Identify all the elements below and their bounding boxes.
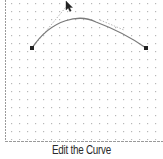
curve-editor-canvas[interactable] (0, 0, 163, 159)
start-anchor-point[interactable] (30, 46, 34, 50)
dot-grid (6, 0, 163, 140)
end-anchor-point[interactable] (144, 46, 148, 50)
figure-caption: Edit the Curve (15, 143, 149, 157)
